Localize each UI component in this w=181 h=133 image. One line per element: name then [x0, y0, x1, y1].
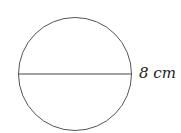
diagram-canvas: 8 cm	[0, 0, 181, 133]
diameter-label: 8 cm	[139, 64, 176, 82]
